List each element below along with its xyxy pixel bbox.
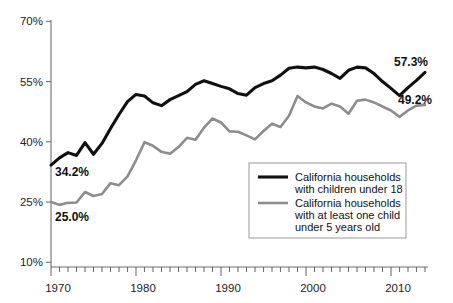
legend-label-under-18-line2: with children under 18 <box>294 183 403 195</box>
x-tick-label: 1970 <box>45 282 71 294</box>
legend-label-under-5-line2: with at least one child <box>294 209 400 221</box>
y-tick-label: 40% <box>20 136 43 148</box>
y-tick-label: 25% <box>20 196 43 208</box>
x-tick-label: 1980 <box>130 282 156 294</box>
y-tick-group: 70%55%40%25%10% <box>20 15 51 268</box>
annotation-end-primary: 57.3% <box>394 55 428 69</box>
y-tick-label: 70% <box>20 15 43 27</box>
legend: California households with children unde… <box>249 163 406 238</box>
x-axis: 19701980199020002010 <box>45 267 428 294</box>
series-line-under-18 <box>51 67 425 165</box>
legend-label-under-18-line1: California households <box>295 171 401 183</box>
x-tick-label: 2010 <box>385 282 411 294</box>
x-tick-label: 1990 <box>215 282 241 294</box>
annotation-start-secondary: 25.0% <box>55 210 89 224</box>
legend-label-under-5-line3: under 5 years old <box>295 221 380 233</box>
line-chart: 70%55%40%25%10% 19701980199020002010 34.… <box>0 0 453 303</box>
y-tick-label: 10% <box>20 256 43 268</box>
legend-label-under-5-line1: California households <box>295 197 401 209</box>
chart-canvas: 70%55%40%25%10% 19701980199020002010 34.… <box>0 0 453 303</box>
x-tick-group: 19701980199020002010 <box>45 267 425 294</box>
y-axis: 70%55%40%25%10% <box>20 15 51 268</box>
x-tick-label: 2000 <box>300 282 326 294</box>
y-tick-label: 55% <box>20 76 43 88</box>
annotation-end-secondary: 49.2% <box>398 93 432 107</box>
annotation-start-primary: 34.2% <box>55 165 89 179</box>
